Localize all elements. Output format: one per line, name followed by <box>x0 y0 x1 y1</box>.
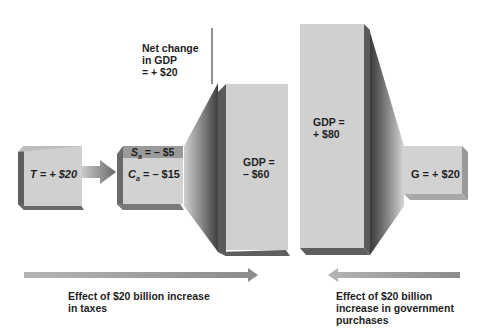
net-change-label: Net change in GDP = + $20 <box>142 42 199 78</box>
gov-caption-line1: Effect of $20 billion <box>336 290 454 302</box>
net-change-line3: = + $20 <box>142 66 199 78</box>
diagram-graphics <box>0 0 484 328</box>
consumption-box: Ca = – $15 <box>128 168 180 185</box>
gov-caption-line2: increase in government <box>336 302 454 314</box>
government-box: G = + $20 <box>411 168 460 180</box>
taxes-label: T = + $20 <box>30 168 77 180</box>
tax-funnel <box>184 83 218 252</box>
saving-value: = – $5 <box>142 146 174 158</box>
taxes-caption-line1: Effect of $20 billion increase <box>68 290 210 302</box>
gdp-gov-line1: GDP = <box>313 116 345 128</box>
government-label: G = + $20 <box>411 168 460 180</box>
government-funnel <box>370 32 404 255</box>
consumption-value: = – $15 <box>140 168 180 180</box>
taxes-to-consumption-arrow <box>82 160 116 184</box>
gdp-gov-box: GDP = + $80 <box>313 116 345 140</box>
taxes-effect-caption: Effect of $20 billion increase in taxes <box>68 290 210 314</box>
gdp-tax-line1: GDP = <box>243 156 275 168</box>
government-effect-caption: Effect of $20 billion increase in govern… <box>336 290 454 326</box>
taxes-box: T = + $20 <box>30 168 77 180</box>
saving-box: Sa = – $5 <box>131 146 174 163</box>
gov-caption-line3: purchases <box>336 314 454 326</box>
taxes-effect-arrow <box>24 268 258 282</box>
government-effect-arrow <box>328 268 460 282</box>
net-change-line2: in GDP <box>142 54 199 66</box>
net-change-line1: Net change <box>142 42 199 54</box>
gdp-tax-line2: – $60 <box>243 168 275 180</box>
gdp-tax-box: GDP = – $60 <box>243 156 275 180</box>
gdp-gov-line2: + $80 <box>313 128 345 140</box>
saving-symbol: S <box>131 146 138 158</box>
taxes-caption-line2: in taxes <box>68 302 210 314</box>
consumption-symbol: C <box>128 168 136 180</box>
